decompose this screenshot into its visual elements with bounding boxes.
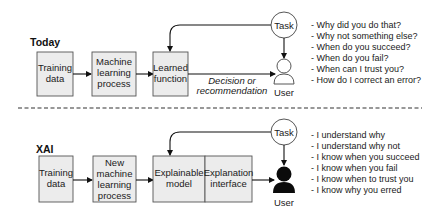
svg-text:learning: learning xyxy=(97,67,131,78)
today-learned-function-box: Learned function xyxy=(153,52,188,96)
edge-label-recommendation: recommendation xyxy=(197,85,268,96)
xai-explainable-model-box: Explainable model xyxy=(153,156,205,202)
svg-text:Learned: Learned xyxy=(153,62,188,73)
arrow-xai-task-to-model xyxy=(170,132,271,155)
svg-text:data: data xyxy=(46,73,65,84)
today-user-label: User xyxy=(274,87,294,98)
xai-ml-process-box: New machine learning process xyxy=(93,156,136,202)
question-item: - When do you fail? xyxy=(311,53,389,63)
xai-statements-list: - I understand why - I understand why no… xyxy=(311,130,420,195)
xai-explanation-interface-box: Explanation interface xyxy=(204,156,254,202)
svg-text:machine: machine xyxy=(97,168,133,179)
xai-diagram: Today Training data Machine learning pro… xyxy=(0,0,437,218)
today-training-data-box: Training data xyxy=(37,52,73,96)
svg-text:Training: Training xyxy=(38,62,72,73)
statement-item: - I know why you erred xyxy=(311,185,402,195)
svg-text:model: model xyxy=(166,178,192,189)
question-item: - Why did you do that? xyxy=(311,20,401,30)
arrow-task-to-function xyxy=(170,25,271,51)
svg-text:function: function xyxy=(154,73,187,84)
question-item: - When can I trust you? xyxy=(311,64,404,74)
svg-text:Task: Task xyxy=(274,20,294,31)
xai-user-label: User xyxy=(274,197,294,208)
statement-item: - I know when you succeed xyxy=(311,152,420,162)
statement-item: - I understand why not xyxy=(311,141,401,151)
svg-text:Explanation: Explanation xyxy=(204,167,254,178)
svg-text:interface: interface xyxy=(210,178,246,189)
question-item: - How do I correct an error? xyxy=(311,75,421,85)
xai-task-node: Task xyxy=(271,119,297,145)
statement-item: - I know when to trust you xyxy=(311,174,414,184)
today-task-node: Task xyxy=(271,12,297,38)
statement-item: - I understand why xyxy=(311,130,386,140)
user-outline-icon xyxy=(274,59,294,84)
svg-text:Machine: Machine xyxy=(96,56,132,67)
section-label-xai: XAI xyxy=(36,143,54,155)
today-questions-list: - Why did you do that? - Why not somethi… xyxy=(311,20,421,85)
statement-item: - I know when you fail xyxy=(311,163,398,173)
svg-text:process: process xyxy=(97,78,131,89)
svg-text:Training: Training xyxy=(39,167,73,178)
svg-text:Task: Task xyxy=(274,127,294,138)
svg-text:New: New xyxy=(105,157,124,168)
svg-text:process: process xyxy=(98,190,132,201)
question-item: - When do you succeed? xyxy=(311,42,411,52)
xai-training-data-box: Training data xyxy=(39,156,73,202)
svg-text:learning: learning xyxy=(98,179,132,190)
today-ml-process-box: Machine learning process xyxy=(92,52,136,96)
svg-text:data: data xyxy=(47,178,66,189)
user-filled-icon xyxy=(273,167,295,194)
svg-text:Explainable: Explainable xyxy=(154,167,203,178)
question-item: - Why not something else? xyxy=(311,31,418,41)
section-label-today: Today xyxy=(30,36,60,48)
